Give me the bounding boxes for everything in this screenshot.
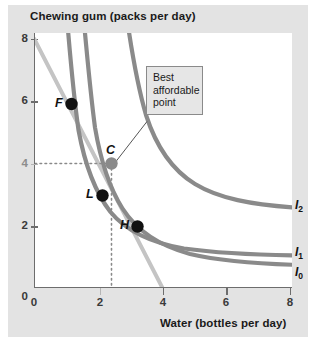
curve-label-i2: I2 bbox=[295, 198, 303, 214]
callout-line-3: point bbox=[153, 96, 196, 109]
curve-label-i2-sub: 2 bbox=[298, 204, 303, 214]
data-point-label-l: L bbox=[86, 187, 94, 201]
chart-figure: Chewing gum (packs per day) Water (bottl… bbox=[0, 0, 316, 343]
curve-label-i1-sub: 1 bbox=[298, 251, 303, 261]
best-affordable-point-callout: Best affordable point bbox=[146, 66, 203, 115]
data-point-label-f: F bbox=[55, 96, 63, 110]
data-point-h bbox=[131, 220, 143, 232]
callout-line-1: Best bbox=[153, 71, 196, 84]
indifference-curve-i0 bbox=[84, 19, 302, 265]
curve-label-i0: I0 bbox=[295, 265, 303, 281]
chart-plot-layer bbox=[0, 0, 316, 343]
data-point-c bbox=[105, 157, 117, 169]
curve-label-i1: I1 bbox=[295, 245, 303, 261]
callout-leader-line bbox=[114, 122, 147, 165]
data-point-label-c: C bbox=[106, 143, 115, 157]
data-point-l bbox=[96, 189, 108, 201]
callout-line-2: affordable bbox=[153, 84, 196, 97]
curve-label-i0-sub: 0 bbox=[298, 271, 303, 281]
data-point-f bbox=[65, 98, 77, 110]
budget-line bbox=[34, 39, 163, 289]
indifference-curve-i1 bbox=[67, 19, 302, 256]
data-point-label-h: H bbox=[120, 218, 129, 232]
